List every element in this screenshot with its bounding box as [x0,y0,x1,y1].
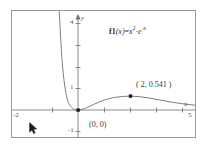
graph-frame[interactable]: y x 4 1 -1 -2 5 f1(x)=x2·e-x ( 2, 0.541 … [11,10,196,138]
origin-point-label[interactable]: (0, 0) [89,121,106,129]
y-axis-arrow-icon [75,14,80,19]
point-marker-origin[interactable] [76,108,79,111]
graph-screenshot: y x 4 1 -1 -2 5 f1(x)=x2·e-x ( 2, 0.541 … [0,0,207,147]
function-label[interactable]: f1(x)=x2·e-x [109,28,146,36]
y-tick-label-neg1: -1 [68,127,74,134]
point-marker-local-max[interactable] [129,94,132,97]
y-tick-label-4: 4 [70,19,74,26]
function-label-e-exponent: -x [142,25,146,31]
function-label-name: f1 [109,27,116,36]
max-point-label[interactable]: ( 2, 0.541 ) [136,81,171,89]
mouse-pointer-icon [29,122,38,135]
y-axis-label: y [81,15,84,22]
y-tick-label-1: 1 [70,84,74,91]
function-label-arg: (x) [116,27,125,36]
x-axis-label: x [184,101,187,108]
x-tick-label-neg2: -2 [13,112,19,119]
x-tick-label-5: 5 [188,112,192,119]
